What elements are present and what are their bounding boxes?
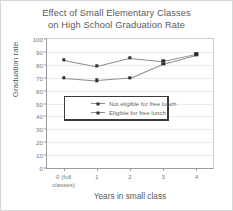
- x-tick-mark: [130, 168, 131, 171]
- y-tick-label: 50: [36, 100, 43, 107]
- chart-title: Effect of Small Elementary Classes on Hi…: [1, 8, 232, 31]
- legend-label: Eligible for free lunch: [109, 109, 166, 116]
- x-tick-mark: [196, 168, 197, 171]
- y-axis-title: Graduation rate: [11, 25, 20, 115]
- legend-marker-icon: [91, 112, 105, 113]
- series-line-segment: [130, 58, 163, 62]
- legend-item-eligible: Eligible for free lunch: [65, 108, 167, 117]
- y-tick-label: 70: [36, 74, 43, 81]
- y-tick-mark: [44, 116, 47, 117]
- legend-item-not-eligible: Not eligible for free lunch: [65, 99, 167, 108]
- x-tick-label: 3: [146, 173, 180, 181]
- x-tick-mark: [64, 168, 65, 171]
- gridline: [47, 91, 213, 92]
- y-tick-mark: [44, 39, 47, 40]
- series-line-segment: [63, 60, 96, 67]
- data-point-marker: [128, 56, 131, 59]
- y-tick-mark: [44, 64, 47, 65]
- x-tick-mark: [97, 168, 98, 171]
- y-tick-label: 60: [36, 87, 43, 94]
- data-point-marker: [95, 79, 98, 82]
- gridline: [47, 65, 213, 66]
- y-tick-label: 0: [40, 165, 43, 172]
- y-tick-label: 90: [36, 48, 43, 55]
- y-tick-label: 40: [36, 113, 43, 120]
- data-point-marker: [62, 58, 65, 61]
- x-tick-label: 4: [179, 173, 213, 181]
- chart-title-line-2: on High School Graduation Rate: [1, 20, 232, 32]
- y-tick-mark: [44, 168, 47, 169]
- y-tick-mark: [44, 155, 47, 156]
- data-point-marker: [62, 76, 65, 79]
- y-tick-label: 20: [36, 139, 43, 146]
- gridline: [47, 142, 213, 143]
- y-tick-mark: [44, 129, 47, 130]
- data-point-marker: [95, 64, 98, 67]
- x-axis-title: Years in small class: [46, 191, 214, 201]
- gridline: [47, 52, 213, 53]
- data-point-marker: [161, 62, 164, 65]
- y-tick-label: 10: [36, 152, 43, 159]
- gridline: [47, 129, 213, 130]
- y-tick-label: 30: [36, 126, 43, 133]
- x-tick-label: 1: [80, 173, 114, 181]
- y-tick-mark: [44, 90, 47, 91]
- chart-legend: Not eligible for free lunch Eligible for…: [64, 96, 169, 121]
- y-tick-mark: [44, 103, 47, 104]
- data-point-marker: [128, 76, 131, 79]
- y-tick-mark: [44, 77, 47, 78]
- chart-title-line-1: Effect of Small Elementary Classes: [1, 8, 232, 20]
- chart-page: Effect of Small Elementary Classes on Hi…: [0, 0, 233, 211]
- legend-label: Not eligible for free lunch: [109, 100, 176, 107]
- y-tick-label: 80: [36, 61, 43, 68]
- legend-marker-icon: [91, 103, 105, 104]
- x-tick-label: 0 (full classes): [47, 173, 81, 188]
- y-tick-mark: [44, 142, 47, 143]
- x-tick-mark: [163, 168, 164, 171]
- data-point-marker: [195, 53, 198, 56]
- gridline: [47, 155, 213, 156]
- y-tick-label: 100: [33, 36, 43, 43]
- x-tick-label: 2: [113, 173, 147, 181]
- y-tick-mark: [44, 51, 47, 52]
